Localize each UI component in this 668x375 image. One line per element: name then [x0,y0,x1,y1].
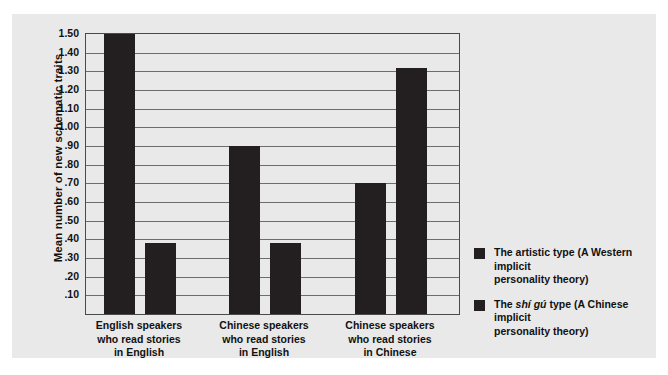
x-axis-category-label-line: English speakers [79,319,199,333]
y-axis-tick-label: .40 [35,232,79,244]
x-axis-category-labels: English speakerswho read storiesin Engli… [85,319,458,375]
y-axis-tick-labels: 1.501.401.301.201.101.00.90.80.70.60.50.… [29,33,79,313]
legend-item[interactable]: The artistic type (A Western implicitper… [474,246,654,287]
bar [145,243,176,314]
legend-swatch-icon [474,300,485,311]
x-axis-category-label: Chinese speakerswho read storiesin Engli… [204,319,324,360]
x-axis-category-label-line: Chinese speakers [330,319,450,333]
x-axis-category-label-line: who read stories [204,333,324,347]
legend-item-label: The artistic type (A Western implicitper… [494,246,632,285]
legend-item-label-italic: shí gú [516,298,547,310]
bar [104,34,135,314]
y-axis-tick-label: .60 [35,195,79,207]
chart-legend: The artistic type (A Western implicitper… [474,246,654,349]
x-axis-category-label-line: in English [79,346,199,360]
y-axis-tick-label: .30 [35,251,79,263]
y-axis-tick-label: 1.50 [35,27,79,39]
bar [396,68,427,314]
legend-item-label: The shí gú type (A Chinese implicitperso… [494,298,628,337]
y-axis-tick-label: .70 [35,176,79,188]
legend-item[interactable]: The shí gú type (A Chinese implicitperso… [474,298,654,339]
x-axis-category-label-line: who read stories [79,333,199,347]
gridline [86,53,459,54]
bar [355,183,386,314]
y-axis-tick-label: 1.30 [35,64,79,76]
y-axis-tick-label: .50 [35,214,79,226]
x-axis-category-label-line: in Chinese [330,346,450,360]
y-axis-tick-label: .90 [35,139,79,151]
x-axis-category-label: English speakerswho read storiesin Engli… [79,319,199,360]
y-axis-tick-label: .10 [35,288,79,300]
x-axis-category-label-line: in English [204,346,324,360]
x-axis-category-label-line: Chinese speakers [204,319,324,333]
legend-swatch-icon [474,248,485,259]
y-axis-tick-label: .20 [35,270,79,282]
x-axis-category-label-line: who read stories [330,333,450,347]
plot-area [85,33,460,315]
bar [270,243,301,314]
chart-figure-card: Mean number of new schematic traits 1.50… [12,14,656,358]
y-axis-tick-label: 1.40 [35,46,79,58]
y-axis-tick-label: 1.00 [35,120,79,132]
y-axis-tick-label: 1.20 [35,83,79,95]
bar [229,146,260,314]
y-axis-tick-label: 1.10 [35,102,79,114]
x-axis-category-label: Chinese speakerswho read storiesin Chine… [330,319,450,360]
y-axis-tick-label: .80 [35,158,79,170]
